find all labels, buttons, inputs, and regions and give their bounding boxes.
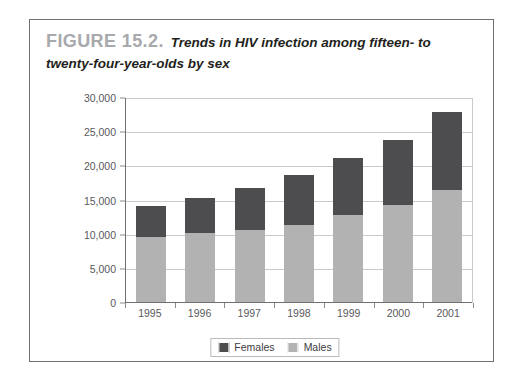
x-tick-label: 2000: [376, 307, 420, 319]
x-tick-label: 1999: [327, 307, 371, 319]
bar-group[interactable]: [235, 98, 265, 303]
bar-segment-females[interactable]: [284, 175, 314, 225]
y-tick-label: 0: [110, 297, 116, 309]
figure-number: FIGURE 15.2.: [46, 31, 164, 51]
bar-group[interactable]: [185, 98, 215, 303]
bar-segment-males[interactable]: [185, 233, 215, 303]
bar-segment-females[interactable]: [333, 158, 363, 215]
y-tick-label: 10,000: [84, 229, 116, 241]
bar-segment-males[interactable]: [136, 237, 166, 303]
x-tick-label: 1997: [227, 307, 271, 319]
figure-frame: FIGURE 15.2.Trends in HIV infection amon…: [29, 19, 494, 362]
bar-segment-males[interactable]: [333, 215, 363, 303]
bar-group[interactable]: [284, 98, 314, 303]
bar-group[interactable]: [383, 98, 413, 303]
x-tick-label: 1998: [277, 307, 321, 319]
x-tick-label: 1996: [178, 307, 222, 319]
bar-group[interactable]: [333, 98, 363, 303]
y-tick-label: 30,000: [84, 92, 116, 104]
y-tick-label: 25,000: [84, 126, 116, 138]
figure-caption: FIGURE 15.2.Trends in HIV infection amon…: [46, 31, 478, 74]
y-tick-label: 15,000: [84, 195, 116, 207]
plot-area: [125, 98, 473, 303]
y-tick-label: 20,000: [84, 160, 116, 172]
bar-segment-males[interactable]: [284, 225, 314, 303]
legend-swatch-icon: [218, 342, 229, 353]
bar-segment-males[interactable]: [432, 190, 462, 303]
bar-segment-females[interactable]: [136, 206, 166, 237]
chart-legend: FemalesMales: [210, 338, 339, 357]
x-axis-labels: 1995199619971998199920002001: [125, 307, 473, 319]
x-tick-label: 2001: [426, 307, 470, 319]
bar-segment-females[interactable]: [432, 112, 462, 189]
y-tick-label: 5,000: [90, 263, 116, 275]
bar-segment-females[interactable]: [185, 198, 215, 234]
legend-entry[interactable]: Females: [218, 341, 274, 353]
legend-entry[interactable]: Males: [288, 341, 332, 353]
legend-label: Males: [304, 341, 332, 353]
bar-group[interactable]: [432, 98, 462, 303]
bar-segment-females[interactable]: [235, 188, 265, 230]
x-tick-label: 1995: [128, 307, 172, 319]
bar-group[interactable]: [136, 98, 166, 303]
bars-layer: [126, 98, 472, 303]
bar-segment-females[interactable]: [383, 140, 413, 205]
y-axis: 05,00010,00015,00020,00025,00030,000: [77, 98, 125, 303]
legend-label: Females: [234, 341, 274, 353]
bar-segment-males[interactable]: [235, 230, 265, 303]
chart-plot-region: 05,00010,00015,00020,00025,00030,000 199…: [77, 98, 473, 356]
bar-segment-males[interactable]: [383, 205, 413, 303]
x-tick-mark: [473, 303, 474, 308]
legend-swatch-icon: [288, 342, 299, 353]
